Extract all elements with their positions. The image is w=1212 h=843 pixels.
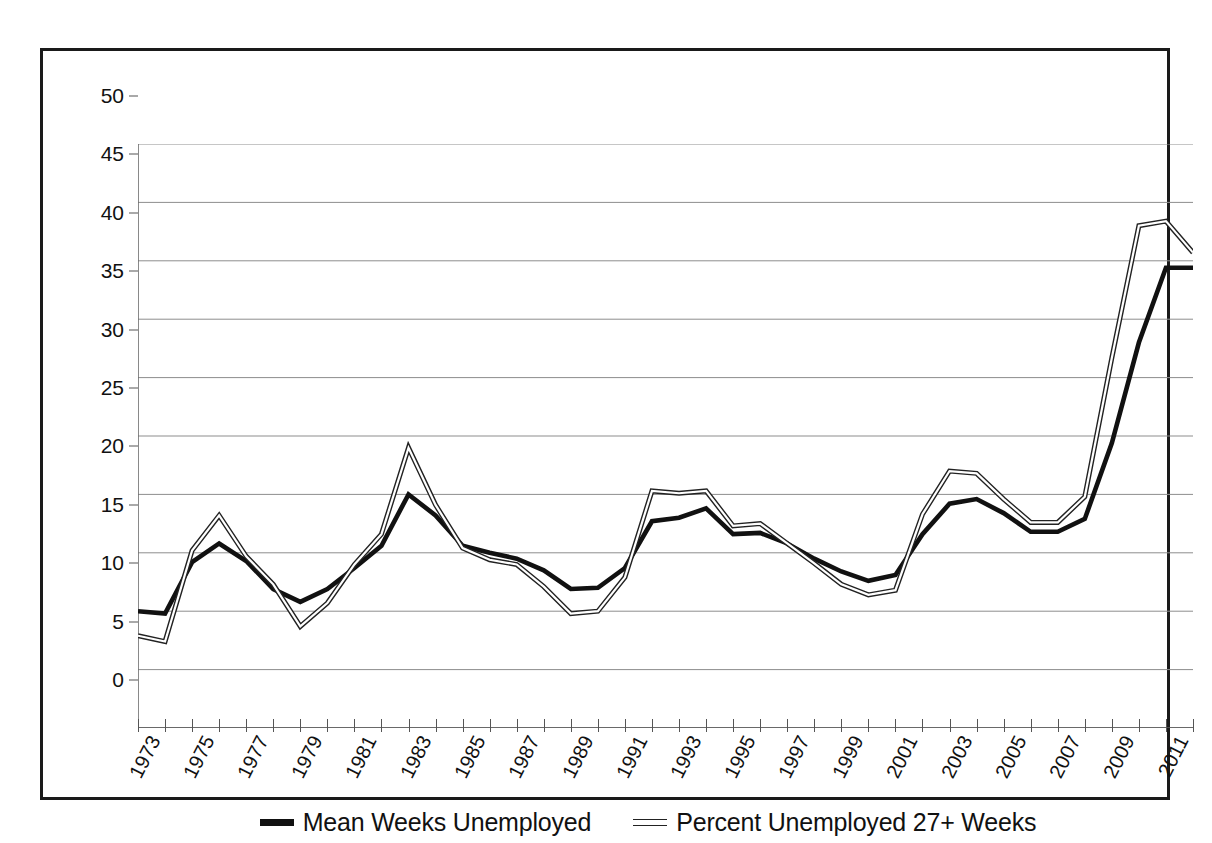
x-axis-tick-mark [436,719,437,732]
legend-label-mean-weeks: Mean Weeks Unemployed [303,808,592,837]
y-axis-tick-mark [129,329,138,330]
x-axis-tick-mark [490,719,491,732]
x-axis-tick-label: 1995 [720,732,761,782]
x-axis-tick-mark [598,719,599,732]
x-axis-tick-label: 1975 [179,732,220,782]
figure-border: 05101520253035404550 1973197519771979198… [40,48,1170,800]
x-axis-tick-label: 2001 [882,732,923,782]
y-axis-tick-label: 30 [101,318,124,342]
y-axis: 05101520253035404550 [43,51,138,635]
y-axis-tick-label: 40 [101,201,124,225]
x-axis-tick-mark [733,719,734,732]
plot-svg [138,144,1193,728]
x-axis-tick-mark [895,719,896,732]
x-axis-tick-label: 2005 [990,732,1031,782]
x-axis-tick-mark [381,719,382,732]
chart-legend: Mean Weeks Unemployed Percent Unemployed… [83,808,1212,837]
x-axis-tick-label: 2007 [1045,732,1086,782]
y-axis-tick-mark [129,271,138,272]
x-axis-tick-mark [652,719,653,732]
x-axis-tick-mark [1031,719,1032,732]
x-axis-tick-mark [814,719,815,732]
x-axis-tick-mark [1139,719,1140,732]
x-axis-tick-label: 1987 [504,732,545,782]
x-axis-tick-mark [787,719,788,732]
x-axis-tick-mark [977,719,978,732]
x-axis-tick-label: 2009 [1099,732,1140,782]
y-axis-tick-label: 10 [101,551,124,575]
legend-label-percent-27plus: Percent Unemployed 27+ Weeks [676,808,1036,837]
series-line-core [138,221,1193,641]
x-axis-tick-label: 1983 [395,732,436,782]
x-axis-tick-mark [409,719,410,732]
gridlines [138,144,1193,728]
y-axis-tick-mark [129,621,138,622]
legend-item-mean-weeks: Mean Weeks Unemployed [260,808,592,837]
solid-line-swatch-icon [260,819,294,826]
x-axis-tick-mark [679,719,680,732]
x-axis-tick-mark [1004,719,1005,732]
y-axis-tick-label: 20 [101,434,124,458]
y-axis-tick-label: 0 [112,668,124,692]
x-axis-tick-mark [219,719,220,732]
y-axis-tick-label: 35 [101,259,124,283]
x-axis-tick-mark [1166,719,1167,732]
x-axis-tick-mark [1058,719,1059,732]
x-axis-tick-mark [517,719,518,732]
x-axis-tick-mark [354,719,355,732]
x-axis-tick-label: 2011 [1153,732,1193,781]
x-axis-tick-mark [571,719,572,732]
x-axis-tick-mark [192,719,193,732]
x-axis-tick-mark [706,719,707,732]
x-axis: 1973197519771979198119831985198719891991… [138,732,1193,812]
y-axis-tick-mark [129,504,138,505]
x-axis-tick-label: 1997 [774,732,815,782]
x-axis-tick-mark [463,719,464,732]
x-axis-tick-label: 1977 [233,732,274,782]
y-axis-tick-label: 25 [101,376,124,400]
x-axis-tick-mark [544,719,545,732]
x-axis-tick-label: 1973 [125,732,166,782]
y-axis-tick-mark [129,388,138,389]
x-axis-tick-mark [273,719,274,732]
chart-figure: 05101520253035404550 1973197519771979198… [0,0,1212,843]
x-axis-tick-mark [165,719,166,732]
y-axis-tick-mark [129,96,138,97]
x-axis-tick-mark [922,719,923,732]
x-axis-tick-label: 1985 [449,732,490,782]
x-axis-tick-mark [1193,719,1194,732]
y-axis-tick-label: 5 [112,610,124,634]
x-axis-tick-label: 1989 [558,732,599,782]
y-axis-tick-label: 50 [101,84,124,108]
x-axis-tick-mark [841,719,842,732]
y-axis-tick-mark [129,563,138,564]
x-axis-tick-mark [1085,719,1086,732]
x-axis-tick-label: 1993 [666,732,707,782]
x-axis-tick-mark [300,719,301,732]
x-axis-tick-label: 1979 [287,732,328,782]
x-axis-tick-label: 1991 [612,732,653,782]
y-axis-tick-mark [129,154,138,155]
x-axis-tick-mark [868,719,869,732]
y-axis-tick-mark [129,680,138,681]
x-axis-tick-mark [1112,719,1113,732]
x-axis-tick-mark [327,719,328,732]
hollow-line-swatch-icon [633,819,667,826]
y-axis-tick-label: 15 [101,493,124,517]
legend-item-percent-27plus: Percent Unemployed 27+ Weeks [633,808,1036,837]
x-axis-tick-mark [625,719,626,732]
y-axis-tick-label: 45 [101,142,124,166]
y-axis-tick-mark [129,446,138,447]
plot-area [138,144,1193,728]
y-axis-tick-mark [129,212,138,213]
x-axis-tick-mark [246,719,247,732]
data-series [138,221,1193,641]
x-axis-tick-mark [950,719,951,732]
x-axis-tick-label: 1981 [341,732,382,782]
x-axis-tick-mark [138,719,139,732]
x-axis-tick-label: 2003 [936,732,977,782]
x-axis-tick-mark [760,719,761,732]
series-line-outline [138,221,1193,641]
x-axis-tick-label: 1999 [828,732,869,782]
